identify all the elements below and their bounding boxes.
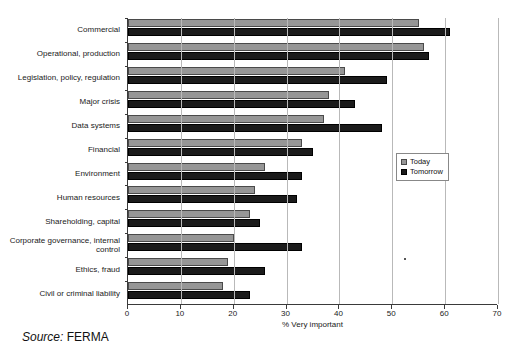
category-label: Civil or criminal liability [0, 289, 120, 298]
bar-today [128, 43, 424, 51]
category-label: Ethics, fraud [0, 265, 120, 274]
bar-today [128, 115, 324, 123]
bar-tomorrow [128, 243, 302, 251]
category-label: Environment [0, 169, 120, 178]
category-tick [125, 90, 128, 91]
bar-tomorrow [128, 124, 382, 132]
category-tick [125, 257, 128, 258]
gridline [181, 18, 182, 304]
bar-group [128, 114, 497, 138]
bar-tomorrow [128, 291, 250, 299]
bar-group [128, 66, 497, 90]
gridline [234, 18, 235, 304]
chart-legend: Today Tomorrow [396, 153, 449, 181]
source-prefix: Source: [22, 330, 63, 344]
category-tick [125, 209, 128, 210]
category-label: Human resources [0, 193, 120, 202]
bar-today [128, 67, 345, 75]
gridline [287, 18, 288, 304]
bar-today [128, 139, 302, 147]
gridline [339, 18, 340, 304]
bar-tomorrow [128, 219, 260, 227]
chart-page: CommercialOperational, productionLegisla… [0, 0, 517, 356]
x-tick-label: 10 [175, 309, 184, 318]
x-tick-label: 50 [387, 309, 396, 318]
bar-group [128, 281, 497, 305]
category-tick [125, 281, 128, 282]
bar-group [128, 42, 497, 66]
legend-label-today: Today [410, 157, 430, 167]
category-tick [125, 18, 128, 19]
legend-item-today: Today [401, 157, 443, 167]
legend-swatch-today-icon [401, 159, 407, 165]
bar-today [128, 210, 250, 218]
legend-label-tomorrow: Tomorrow [410, 167, 443, 177]
bar-today [128, 282, 223, 290]
category-label: Data systems [0, 121, 120, 130]
bar-group [128, 90, 497, 114]
category-tick [125, 185, 128, 186]
category-axis-labels: CommercialOperational, productionLegisla… [0, 18, 124, 305]
x-tick-label: 20 [228, 309, 237, 318]
x-tick-label: 0 [125, 309, 129, 318]
bar-today [128, 186, 255, 194]
bar-today [128, 91, 329, 99]
x-tick-label: 40 [334, 309, 343, 318]
bar-tomorrow [128, 28, 450, 36]
bar-group [128, 209, 497, 233]
bar-tomorrow [128, 100, 355, 108]
category-label: Corporate governance, internal control [0, 236, 120, 254]
category-label: Major crisis [0, 97, 120, 106]
category-tick [125, 66, 128, 67]
source-caption: Source: FERMA [22, 330, 109, 344]
x-axis-title: % Very important [127, 320, 498, 329]
bar-tomorrow [128, 76, 387, 84]
bar-tomorrow [128, 267, 265, 275]
bar-tomorrow [128, 195, 297, 203]
x-tick-label: 30 [281, 309, 290, 318]
category-label: Financial [0, 145, 120, 154]
legend-item-tomorrow: Tomorrow [401, 167, 443, 177]
bar-tomorrow [128, 52, 429, 60]
category-label: Legislation, policy, regulation [0, 73, 120, 82]
gridline [392, 18, 393, 304]
bar-today [128, 19, 419, 27]
category-tick [125, 114, 128, 115]
category-tick [125, 42, 128, 43]
bar-group [128, 257, 497, 281]
legend-swatch-tomorrow-icon [401, 169, 407, 175]
bar-tomorrow [128, 148, 313, 156]
source-name: FERMA [67, 330, 109, 344]
category-tick [125, 138, 128, 139]
x-tick-label: 70 [493, 309, 502, 318]
category-tick [125, 162, 128, 163]
bar-tomorrow [128, 172, 302, 180]
bar-group [128, 18, 497, 42]
gridline [498, 18, 499, 304]
category-tick [125, 233, 128, 234]
category-label: Commercial [0, 25, 120, 34]
bar-group [128, 185, 497, 209]
x-tick-label: 60 [440, 309, 449, 318]
bar-today [128, 258, 228, 266]
cut-off-title [0, 0, 517, 12]
bar-group [128, 233, 497, 257]
category-label: Operational, production [0, 49, 120, 58]
category-label: Shareholding, capital [0, 217, 120, 226]
scan-speck [404, 258, 406, 260]
bar-today [128, 163, 265, 171]
